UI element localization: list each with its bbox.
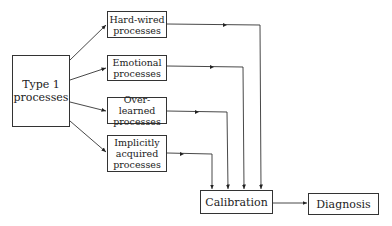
type1-processes-label: Type 1 processes xyxy=(13,78,68,104)
diagnosis-box: Diagnosis xyxy=(308,193,379,215)
over-learned-processes-box: Over-learned processes xyxy=(107,97,167,124)
emotional-processes-box: Emotional processes xyxy=(107,55,167,81)
diagnosis-label: Diagnosis xyxy=(316,198,370,211)
implicitly-acquired-processes-label: Implicitly acquired processes xyxy=(113,137,161,170)
calibration-box: Calibration xyxy=(200,190,273,214)
hard-wired-processes-label: Hard-wired processes xyxy=(109,14,164,36)
hard-wired-processes-box: Hard-wired processes xyxy=(107,11,167,38)
type1-processes-box: Type 1 processes xyxy=(12,55,70,127)
calibration-label: Calibration xyxy=(205,196,268,209)
implicitly-acquired-processes-box: Implicitly acquired processes xyxy=(107,135,167,172)
over-learned-processes-label: Over-learned processes xyxy=(108,94,166,127)
emotional-processes-label: Emotional processes xyxy=(112,57,161,79)
